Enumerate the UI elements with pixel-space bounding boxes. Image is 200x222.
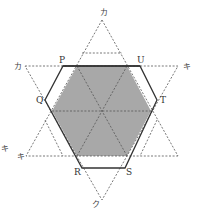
label-ka-top: カ — [100, 8, 108, 17]
label-ku-bottom: ク — [92, 200, 100, 209]
label-ki-left-bottom: キ — [17, 152, 25, 161]
label-ki-left-outer: キ — [1, 144, 9, 153]
label-R: R — [74, 167, 81, 177]
label-ka-left: カ — [14, 62, 22, 71]
label-P: P — [59, 55, 65, 65]
label-ki-right: キ — [183, 62, 191, 71]
label-Q: Q — [36, 95, 43, 105]
label-U: U — [137, 55, 145, 65]
label-S: S — [126, 167, 132, 177]
hexagon-star-diagram: P U Q T R S カ カ キ キ キ ク — [0, 0, 200, 222]
label-T: T — [160, 95, 166, 105]
